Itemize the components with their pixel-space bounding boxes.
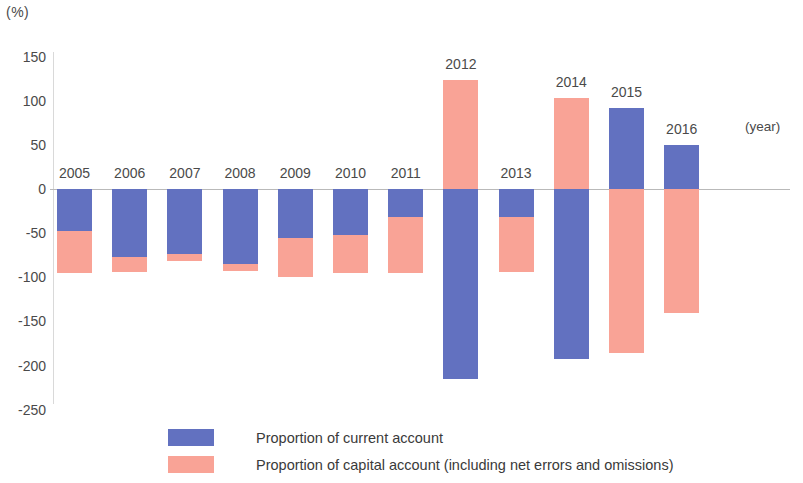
- bar-segment: [57, 231, 92, 273]
- bar-segment: [167, 189, 202, 254]
- bar-segment: [388, 217, 423, 273]
- x-axis-year-label: 2010: [335, 165, 366, 181]
- bar-segment: [333, 189, 368, 235]
- x-axis-year-label: 2016: [666, 121, 697, 137]
- x-axis-year-label: 2009: [280, 165, 311, 181]
- bar-segment: [333, 235, 368, 273]
- bar-segment: [664, 145, 699, 189]
- bar-segment: [278, 189, 313, 238]
- bar-segment: [609, 108, 644, 189]
- bar-segment: [554, 98, 589, 189]
- legend-label-current: Proportion of current account: [256, 430, 443, 446]
- bar-segment: [278, 238, 313, 277]
- bar-segment: [499, 189, 534, 217]
- x-axis-year-label: 2012: [445, 56, 476, 72]
- legend-item-capital: Proportion of capital account (including…: [168, 451, 788, 478]
- bar-segment: [443, 80, 478, 189]
- x-axis-year-label: 2011: [391, 165, 421, 181]
- bar-segment: [443, 189, 478, 379]
- x-axis-year-label: 2005: [59, 165, 90, 181]
- x-axis-year-label: 2013: [501, 165, 532, 181]
- legend-swatch-current-icon: [168, 429, 214, 446]
- x-axis-year-label: 2008: [225, 165, 256, 181]
- bar-segment: [57, 189, 92, 231]
- bar-segment: [167, 254, 202, 261]
- legend-item-current: Proportion of current account: [168, 424, 788, 451]
- bar-segment: [223, 189, 258, 264]
- legend-swatch-capital-icon: [168, 456, 214, 473]
- x-axis-year-label: 2014: [556, 74, 587, 90]
- bar-segment: [609, 189, 644, 353]
- bar-segment: [664, 189, 699, 313]
- bar-segment: [388, 189, 423, 217]
- bar-segment: [223, 264, 258, 271]
- x-axis-year-label: 2006: [114, 165, 145, 181]
- x-axis-year-label: 2007: [169, 165, 200, 181]
- chart-legend: Proportion of current account Proportion…: [168, 424, 788, 478]
- plot-area: 150100500-50-100-150-200-250 20052006200…: [0, 0, 803, 420]
- bar-segment: [112, 189, 147, 257]
- bar-segment: [112, 257, 147, 272]
- legend-label-capital: Proportion of capital account (including…: [256, 457, 674, 473]
- bar-chart: (%) (year) 150100500-50-100-150-200-250 …: [0, 0, 803, 483]
- x-axis-year-label: 2015: [611, 84, 642, 100]
- bars-layer: 2005200620072008200920102011201220132014…: [0, 0, 803, 420]
- bar-segment: [554, 189, 589, 359]
- bar-segment: [499, 217, 534, 272]
